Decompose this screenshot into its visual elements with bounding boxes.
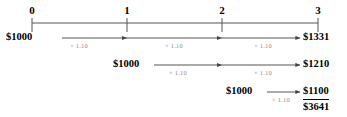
- timeline-axis: [32, 18, 318, 32]
- row-1-growth-factor-0: × 1.10: [70, 43, 88, 49]
- row-3-deposit-amount: $1000: [226, 86, 252, 97]
- row-3-growth-factor-0: × 1.10: [272, 97, 290, 103]
- tick-label-0: 0: [29, 5, 35, 16]
- row-1-segment-head-0: [122, 36, 127, 40]
- row-1-deposit-amount: $1000: [6, 32, 32, 43]
- row-1-future-value: $1331: [303, 32, 329, 43]
- diagram-lines: [0, 0, 347, 117]
- row-1-growth-factor-2: × 1.10: [254, 43, 272, 49]
- total-value: $3641: [303, 102, 329, 113]
- row-2-future-value: $1210: [303, 59, 329, 70]
- row-3-future-value: $1100: [303, 86, 329, 100]
- row-2-deposit-amount: $1000: [113, 59, 139, 70]
- compound-interest-timeline-diagram: 0123 × 1.10× 1.10× 1.10$1000$1331× 1.10×…: [0, 0, 347, 117]
- tick-label-2: 2: [219, 5, 225, 16]
- row-1-growth-factor-1: × 1.10: [165, 43, 183, 49]
- tick-label-1: 1: [124, 5, 130, 16]
- tick-label-3: 3: [315, 5, 321, 16]
- row-1-segment-head-1: [217, 36, 222, 40]
- row-2-growth-factor-1: × 1.10: [254, 70, 272, 76]
- row-2-growth-factor-0: × 1.10: [169, 70, 187, 76]
- row-2-segment-head-0: [217, 63, 222, 67]
